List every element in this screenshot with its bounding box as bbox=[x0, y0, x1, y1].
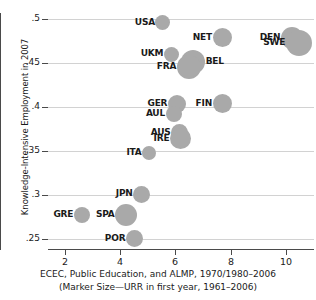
data-point-marker bbox=[164, 47, 179, 62]
x-axis-tick bbox=[175, 250, 176, 255]
y-axis-tick bbox=[42, 151, 48, 152]
x-axis-line bbox=[48, 249, 314, 250]
y-axis-title: Knowledge-Intensive Employment in 2007 bbox=[20, 7, 30, 247]
data-point-marker bbox=[166, 106, 182, 122]
data-point-marker bbox=[286, 30, 312, 56]
data-point-label: USA bbox=[135, 17, 155, 27]
data-point-label: UKM bbox=[141, 48, 164, 58]
data-point-marker bbox=[170, 128, 191, 149]
y-axis-tick-label: .45 bbox=[0, 57, 40, 67]
data-point-marker bbox=[142, 146, 156, 160]
y-axis-tick bbox=[42, 19, 48, 20]
y-axis-tick-label: .4 bbox=[0, 101, 40, 111]
data-point-marker bbox=[115, 204, 137, 226]
data-point-marker bbox=[213, 94, 232, 113]
data-point-label: JPN bbox=[116, 188, 133, 198]
y-axis-tick-label: .35 bbox=[0, 145, 40, 155]
data-point-marker bbox=[133, 186, 150, 203]
data-point-label: SPA bbox=[96, 209, 115, 219]
y-axis-tick bbox=[42, 239, 48, 240]
x-axis-tick-label: 10 bbox=[274, 256, 298, 267]
x-axis-tick-label: 4 bbox=[108, 256, 132, 267]
data-point-marker bbox=[126, 230, 143, 247]
y-axis-tick bbox=[42, 63, 48, 64]
data-point-marker bbox=[213, 28, 232, 47]
gridline bbox=[48, 151, 314, 152]
y-axis-tick-label: .5 bbox=[0, 13, 40, 23]
x-axis-tick bbox=[286, 250, 287, 255]
x-axis-tick-label: 2 bbox=[53, 256, 77, 267]
data-point-label: FRA bbox=[157, 61, 176, 71]
data-point-label: FIN bbox=[196, 98, 212, 108]
y-axis-tick bbox=[42, 107, 48, 108]
x-axis-tick bbox=[231, 250, 232, 255]
x-axis-title: ECEC, Public Education, and ALMP, 1970/1… bbox=[0, 268, 316, 281]
x-axis-tick bbox=[120, 250, 121, 255]
scatter-chart: Knowledge-Intensive Employment in 2007 .… bbox=[0, 0, 316, 300]
data-point-label: IRE bbox=[154, 133, 170, 143]
gridline bbox=[48, 239, 314, 240]
data-point-label: SWE bbox=[263, 37, 285, 47]
x-axis-subtitle: (Marker Size—URR in first year, 1961–200… bbox=[0, 281, 316, 294]
gridline bbox=[48, 195, 314, 196]
y-axis-line bbox=[0, 13, 1, 250]
data-point-label: POR bbox=[105, 233, 126, 243]
gridline bbox=[48, 19, 314, 20]
data-point-label: BEL bbox=[206, 56, 224, 66]
data-point-marker bbox=[74, 207, 90, 223]
x-axis-tick bbox=[65, 250, 66, 255]
data-point-label: AUL bbox=[146, 108, 165, 118]
data-point-marker bbox=[155, 15, 170, 30]
y-axis-tick-label: .25 bbox=[0, 233, 40, 243]
data-point-label: GER bbox=[147, 98, 167, 108]
x-axis-caption: ECEC, Public Education, and ALMP, 1970/1… bbox=[0, 268, 316, 294]
data-point-label: NET bbox=[193, 32, 212, 42]
x-axis-tick-label: 6 bbox=[163, 256, 187, 267]
y-axis-tick-label: .3 bbox=[0, 189, 40, 199]
data-point-label: ITA bbox=[126, 147, 141, 157]
y-axis-tick bbox=[42, 195, 48, 196]
data-point-marker bbox=[177, 55, 201, 79]
x-axis-tick-label: 8 bbox=[219, 256, 243, 267]
data-point-label: GRE bbox=[53, 209, 73, 219]
